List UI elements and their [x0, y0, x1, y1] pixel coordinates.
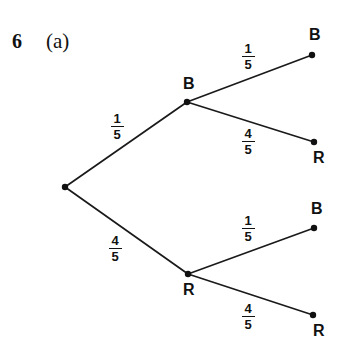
- tree-node-label: B: [183, 76, 195, 92]
- tree-branch: [65, 187, 188, 274]
- fraction-denominator: 5: [238, 317, 258, 331]
- tree-node-label: R: [313, 150, 325, 166]
- fraction-denominator: 5: [238, 57, 258, 71]
- fraction-numerator: 1: [238, 42, 258, 56]
- branch-probability-label: 45: [105, 234, 125, 263]
- tree-edges-layer: [0, 0, 343, 347]
- branch-probability-label: 15: [107, 112, 127, 141]
- tree-node-dot: [184, 99, 190, 105]
- probability-tree-diagram: 6 (a) 154515451545BRBRBR: [0, 0, 343, 347]
- tree-node-dot: [62, 184, 68, 190]
- tree-node-label: B: [309, 27, 321, 43]
- fraction-numerator: 1: [107, 112, 127, 126]
- tree-node-label: R: [183, 282, 195, 298]
- fraction-numerator: 4: [105, 234, 125, 248]
- tree-node-dot: [310, 312, 316, 318]
- branch-probability-label: 15: [238, 214, 258, 243]
- tree-node-dot: [185, 271, 191, 277]
- fraction-numerator: 1: [238, 214, 258, 228]
- branch-probability-label: 45: [238, 127, 258, 156]
- fraction-numerator: 4: [238, 127, 258, 141]
- fraction-denominator: 5: [238, 229, 258, 243]
- fraction-numerator: 4: [238, 302, 258, 316]
- branch-probability-label: 45: [238, 302, 258, 331]
- tree-node-dot: [309, 52, 315, 58]
- tree-node-dot: [311, 225, 317, 231]
- branch-probability-label: 15: [238, 42, 258, 71]
- tree-node-dot: [311, 139, 317, 145]
- tree-node-label: R: [313, 323, 325, 339]
- tree-node-label: B: [311, 201, 323, 217]
- fraction-denominator: 5: [238, 142, 258, 156]
- fraction-denominator: 5: [105, 249, 125, 263]
- fraction-denominator: 5: [107, 127, 127, 141]
